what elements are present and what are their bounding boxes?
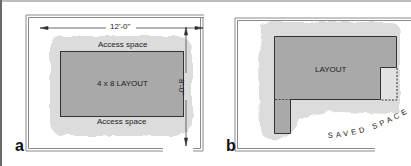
layout-label-b: LAYOUT [315, 66, 346, 74]
access-space-top-label: Access space [98, 41, 147, 49]
panel-a-label: a [15, 138, 24, 154]
layout-label-a: 4 x 8 LAYOUT [97, 80, 148, 88]
panel-b-label: b [226, 138, 236, 154]
access-space-bottom-label: Access space [97, 118, 146, 126]
height-dimension-label: 8'-0" [177, 79, 185, 95]
room-layout-diagram: SAVED SPACE [0, 0, 411, 166]
width-dimension-label: 12'-0" [110, 23, 130, 31]
saved-space-notch [380, 68, 397, 100]
panel-b: SAVED SPACE [235, 18, 411, 151]
